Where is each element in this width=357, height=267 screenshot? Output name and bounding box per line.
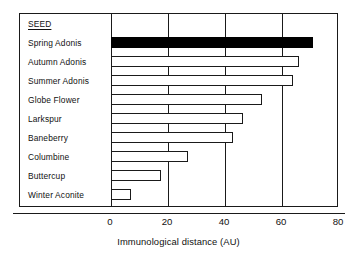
x-tick-label-60: 60 xyxy=(276,216,287,227)
bar-spring-adonis xyxy=(111,37,313,48)
bar-baneberry xyxy=(111,132,233,143)
bar-globe-flower xyxy=(111,94,262,105)
bar-buttercup xyxy=(111,170,161,181)
x-tick-label-40: 40 xyxy=(219,216,230,227)
x-axis-line xyxy=(13,213,345,214)
bar-chart: SEED Spring Adonis Autumn Adonis Summer … xyxy=(0,0,357,267)
bar-summer-adonis xyxy=(111,75,293,86)
bar-columbine xyxy=(111,151,188,162)
bar-larkspur xyxy=(111,113,243,124)
bar-autumn-adonis xyxy=(111,56,299,67)
bar-winter-aconite xyxy=(111,189,131,200)
x-tick-label-80: 80 xyxy=(333,216,344,227)
bars-layer xyxy=(20,14,339,208)
plot-frame: SEED Spring Adonis Autumn Adonis Summer … xyxy=(19,13,338,207)
x-tick-label-20: 20 xyxy=(162,216,173,227)
x-tick-label-0: 0 xyxy=(107,216,112,227)
x-axis-title: Immunological distance (AU) xyxy=(0,236,357,247)
